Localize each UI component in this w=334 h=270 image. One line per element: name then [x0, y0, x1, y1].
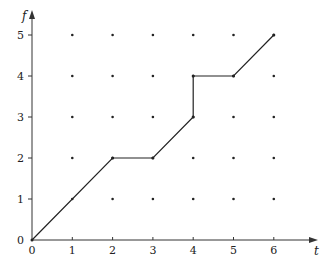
- y-tick-label: 0: [17, 234, 24, 247]
- lattice-dot: [71, 157, 74, 160]
- lattice-dot: [111, 75, 114, 78]
- series-vertex-markers: [31, 34, 276, 242]
- lattice-dot: [273, 198, 276, 201]
- lattice-dot: [152, 116, 155, 119]
- lattice-dot: [273, 75, 276, 78]
- x-tick-label: 0: [29, 244, 36, 257]
- lattice-dot: [111, 198, 114, 201]
- x-tick-label: 3: [149, 244, 156, 257]
- lattice-dot: [152, 198, 155, 201]
- vertex-marker: [31, 239, 34, 242]
- x-tick-label: 1: [69, 244, 76, 257]
- lattice-dots: [71, 34, 275, 201]
- lattice-dot: [111, 116, 114, 119]
- lattice-dot: [71, 116, 74, 119]
- vertex-marker: [272, 34, 275, 37]
- lattice-dot: [152, 75, 155, 78]
- lattice-dot: [111, 34, 114, 37]
- lattice-dot: [192, 157, 195, 160]
- series-line: [32, 35, 274, 240]
- x-tick-label: 2: [109, 244, 116, 257]
- axes: 0123456 012345 t f: [17, 9, 319, 258]
- x-tick-label: 6: [270, 244, 277, 257]
- lattice-dot: [232, 157, 235, 160]
- y-tick-label: 5: [17, 29, 24, 42]
- lattice-dot: [152, 34, 155, 37]
- vertex-marker: [151, 157, 154, 160]
- step-path-chart: 0123456 012345 t f: [0, 0, 334, 270]
- y-tick-label: 2: [17, 152, 24, 165]
- vertex-marker: [192, 75, 195, 78]
- y-axis-arrow-icon: [29, 10, 35, 19]
- lattice-dot: [192, 198, 195, 201]
- lattice-dot: [232, 34, 235, 37]
- lattice-dot: [232, 116, 235, 119]
- y-tick-label: 3: [17, 111, 24, 124]
- lattice-dot: [71, 34, 74, 37]
- y-tick-label: 4: [17, 70, 24, 83]
- vertex-marker: [232, 75, 235, 78]
- x-axis-arrow-icon: [309, 237, 318, 243]
- y-tick-label: 1: [17, 193, 24, 206]
- lattice-dot: [192, 34, 195, 37]
- vertex-marker: [192, 116, 195, 119]
- lattice-dot: [273, 157, 276, 160]
- lattice-dot: [273, 116, 276, 119]
- x-tick-label: 4: [190, 244, 197, 257]
- vertex-marker: [111, 157, 114, 160]
- lattice-dot: [71, 75, 74, 78]
- lattice-dot: [232, 198, 235, 201]
- y-axis-label: f: [21, 9, 29, 23]
- x-tick-label: 5: [230, 244, 237, 257]
- y-axis-ticks: 012345: [17, 29, 32, 247]
- x-axis-label: t: [314, 244, 319, 258]
